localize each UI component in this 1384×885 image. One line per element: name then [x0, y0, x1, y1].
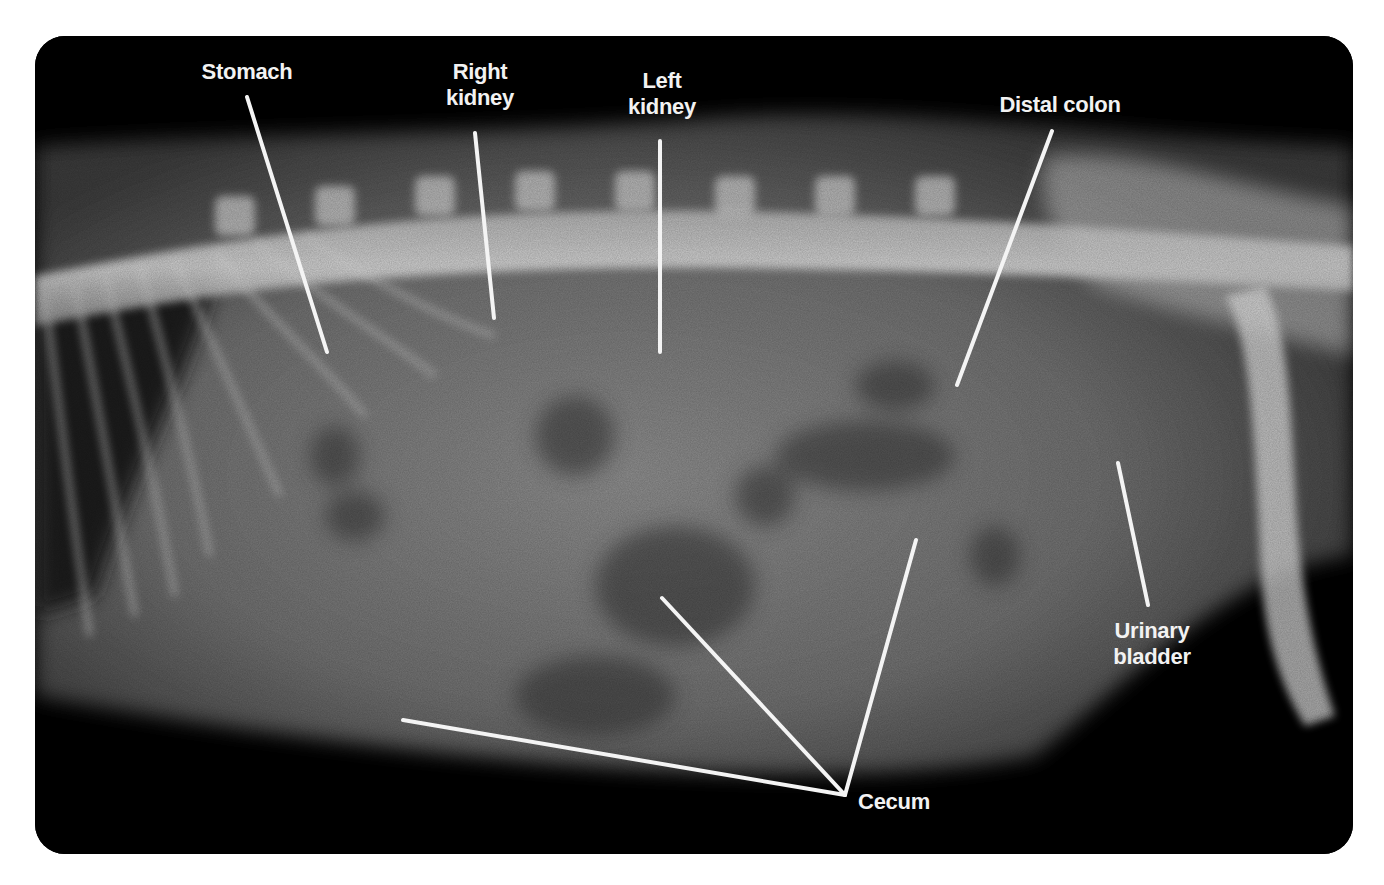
xray-body-silhouette	[35, 36, 1353, 854]
label-stomach: Stomach	[195, 59, 299, 85]
label-cecum: Cecum	[852, 789, 936, 815]
label-distal-colon: Distal colon	[990, 92, 1130, 118]
label-urinary-bladder: Urinary bladder	[1100, 618, 1204, 670]
radiograph-image	[35, 36, 1353, 854]
label-right-kidney: Right kidney	[432, 59, 528, 111]
label-left-kidney: Left kidney	[614, 68, 710, 120]
